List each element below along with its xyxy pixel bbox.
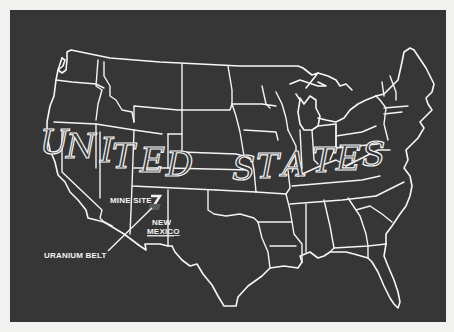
map-page: U N I T E D S T A T E S MINE SITE NEW ME… bbox=[0, 0, 454, 332]
title-letter: T bbox=[312, 140, 337, 180]
mine-site-label: MINE SITE bbox=[110, 196, 152, 205]
uranium-belt-label: URANIUM BELT bbox=[44, 251, 107, 260]
title-letter: T bbox=[112, 136, 137, 176]
title-letter: D bbox=[165, 144, 193, 184]
title-letter: A bbox=[279, 144, 307, 184]
title-united: U N I T E D bbox=[40, 122, 193, 184]
title-letter: E bbox=[335, 138, 361, 178]
new-mexico-label-line1: NEW bbox=[152, 218, 172, 227]
title-letter: S bbox=[232, 148, 255, 188]
title-letter: E bbox=[139, 140, 165, 180]
title-letter: T bbox=[256, 146, 281, 186]
title-letter: N bbox=[65, 126, 97, 166]
us-map: U N I T E D S T A T E S MINE SITE NEW ME… bbox=[0, 0, 454, 332]
new-mexico-label-line2: MEXICO bbox=[147, 227, 180, 236]
title-letter: S bbox=[362, 134, 385, 174]
